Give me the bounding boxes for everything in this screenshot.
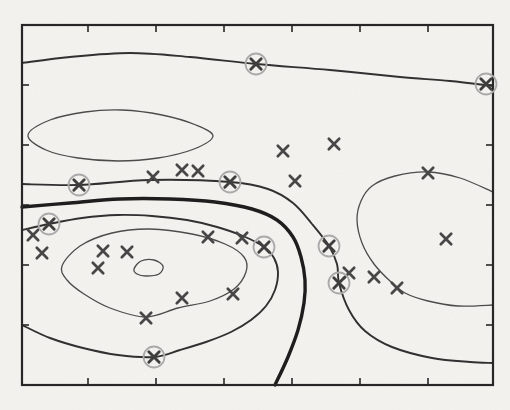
plot-svg xyxy=(0,0,510,410)
plot-layers xyxy=(0,0,510,410)
scanned-figure xyxy=(0,0,510,410)
